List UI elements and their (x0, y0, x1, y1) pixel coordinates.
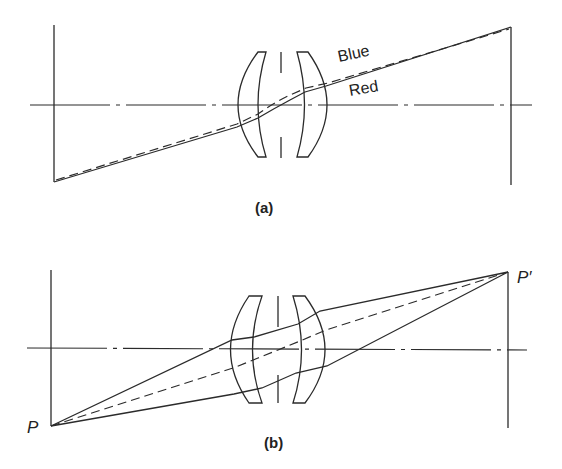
red-label: Red (348, 77, 380, 99)
front-lens (231, 296, 263, 403)
caption-a: (a) (255, 199, 273, 216)
figure-b: P P′ (b) (27, 268, 532, 451)
optical-axis (27, 348, 527, 350)
figure-a: Blue Red (a) (30, 25, 532, 216)
caption-b: (b) (264, 434, 283, 451)
lens-diagram: Blue Red (a) P P′ (b) (0, 0, 562, 469)
image-point-label: P′ (517, 268, 532, 287)
chief-ray (51, 272, 508, 426)
object-point-label: P (27, 418, 39, 437)
blue-label: Blue (336, 42, 371, 65)
